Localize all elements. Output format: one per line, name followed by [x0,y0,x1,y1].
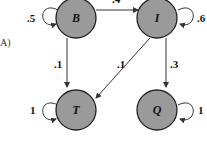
label-t-t: 1 [30,104,36,116]
node-b-label: B [71,11,80,25]
label-b-i: .4 [112,0,121,5]
label-b-t: .1 [54,58,62,70]
node-q-label: Q [153,103,162,117]
state-transition-diagram: A) B I T Q .5 .4 .6 .1 .1 .3 1 1 [0,0,207,141]
label-i-t: .1 [117,58,125,70]
label-b-b: .5 [27,12,36,24]
panel-label: A) [0,37,11,49]
label-i-i: .6 [197,12,206,24]
self-loop-q [178,103,193,120]
self-loop-i [178,8,193,25]
label-q-q: 1 [198,104,204,116]
node-i: I [137,0,177,38]
node-t-label: T [72,103,80,117]
node-b: B [56,0,96,38]
label-i-q: .3 [170,58,179,70]
node-q: Q [137,90,177,130]
node-t: T [56,90,96,130]
